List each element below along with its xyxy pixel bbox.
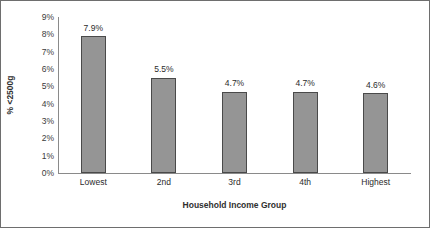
x-axis-category-labels: Lowest2nd3rd4thHighest [58,177,411,191]
plot-area: 7.9%5.5%4.7%4.7%4.6% [58,17,411,173]
y-axis-tick-labels: 9%8%7%6%5%4%3%2%1%0% [31,1,54,228]
y-tick-label: 7% [31,47,54,56]
y-tick-label: 3% [31,117,54,126]
x-category-label: 3rd [199,177,270,187]
bar-group: 4.7% [199,17,270,173]
bar[interactable] [293,92,318,173]
bar[interactable] [222,92,247,173]
bar-group: 7.9% [58,17,129,173]
x-axis-title: Household Income Group [58,200,411,210]
bar-value-label: 7.9% [58,24,129,33]
y-tick-label: 6% [31,65,54,74]
bar-group: 4.6% [340,17,411,173]
bar-group: 4.7% [270,17,341,173]
y-tick-label: 4% [31,99,54,108]
y-tick-label: 5% [31,82,54,91]
y-tick-label: 0% [31,169,54,178]
y-tick-label: 8% [31,30,54,39]
bar[interactable] [81,36,106,173]
bar[interactable] [151,78,176,173]
x-category-label: Lowest [58,177,129,187]
bar[interactable] [363,93,388,173]
bar-group: 5.5% [129,17,200,173]
y-tick-label: 1% [31,151,54,160]
y-tick-label: 2% [31,134,54,143]
bar-value-label: 4.7% [270,79,341,88]
x-axis-line [58,173,411,174]
y-axis-title: % <2500g [5,76,15,115]
x-category-label: 4th [270,177,341,187]
x-category-label: Highest [340,177,411,187]
chart-container: % <2500g 9%8%7%6%5%4%3%2%1%0% 7.9%5.5%4.… [0,0,430,228]
bar-value-label: 4.7% [199,79,270,88]
y-tick-label: 9% [31,13,54,22]
bar-value-label: 5.5% [129,65,200,74]
bar-value-label: 4.6% [340,81,411,90]
x-category-label: 2nd [129,177,200,187]
